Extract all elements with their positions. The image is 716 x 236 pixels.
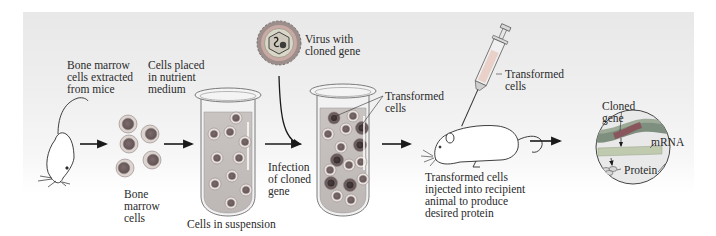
label-infection: Infection of cloned gene xyxy=(268,161,311,197)
label-mrna: mRNA xyxy=(651,136,684,148)
virus-infection-arrow xyxy=(279,76,300,144)
diagram-canvas: Bone marrow cells extracted from mice Ce… xyxy=(0,0,716,236)
bone-marrow-cells-icon xyxy=(116,115,161,177)
label-virus: Virus with cloned gene xyxy=(305,33,360,57)
recipient-mouse-icon xyxy=(421,125,542,167)
test-tube-suspension-icon xyxy=(195,88,261,216)
label-syringe-cells: Transformed cells xyxy=(505,68,564,92)
virus-icon xyxy=(257,21,301,65)
label-transformed-cells-tube: Transformed cells xyxy=(385,90,444,114)
label-injection: Transformed cells injected into recipien… xyxy=(425,171,525,219)
label-cells-in-suspension: Cells in suspension xyxy=(187,218,276,230)
label-bone-marrow-extracted: Bone marrow cells extracted from mice xyxy=(67,59,133,95)
test-tube-transformed-icon xyxy=(310,84,383,216)
label-bone-marrow-cells: Bone marrow cells xyxy=(124,188,160,224)
label-protein: Protein xyxy=(624,164,657,176)
label-cells-placed: Cells placed in nutrient medium xyxy=(148,59,205,95)
label-cloned-gene: Cloned gene xyxy=(602,100,635,124)
donor-mouse-icon xyxy=(38,98,88,187)
